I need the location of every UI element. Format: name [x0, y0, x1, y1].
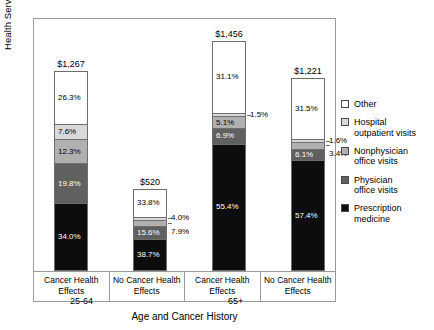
- bar-total-label: $1,456: [215, 29, 243, 39]
- legend-label: Hospital outpatient visits: [354, 117, 416, 138]
- legend-label: Prescription medicine: [354, 203, 402, 224]
- segment-percent-label: 4.0%: [171, 214, 189, 222]
- legend-swatch-icon: [341, 118, 349, 126]
- bar-segment: 55.4%: [213, 144, 245, 270]
- category-label: No Cancer Health Effects: [260, 272, 336, 301]
- x-axis-title: Age and Cancer History: [33, 311, 336, 322]
- stacked-bar: $1,22131.5%6.1%57.4%1.6%3.4%: [291, 78, 325, 271]
- bar-segment: 7.6%: [55, 124, 87, 139]
- legend-swatch-icon: [341, 176, 349, 184]
- bar-segment: 6.1%: [292, 149, 324, 161]
- bar-segment: 31.1%: [213, 42, 245, 113]
- bar-segment: 12.3%: [55, 139, 87, 163]
- chart-legend: OtherHospital outpatient visitsNonphysic…: [341, 99, 433, 232]
- chart-figure: Health Services Expenditures ($) $1,2672…: [0, 0, 434, 330]
- bar-total-label: $1,267: [57, 59, 85, 69]
- segment-percent-label: 6.9%: [213, 132, 234, 140]
- legend-item[interactable]: Hospital outpatient visits: [341, 117, 433, 138]
- segment-percent-label: 5.1%: [213, 119, 234, 127]
- plot-area: $1,26726.3%7.6%12.3%19.8%34.0%$52033.8%1…: [33, 18, 336, 272]
- legend-swatch-icon: [341, 100, 349, 108]
- stacked-bar: $1,45631.1%5.1%6.9%55.4%1.5%: [212, 41, 246, 271]
- bar-total-label: $1,221: [294, 66, 322, 76]
- bar-segment: 26.3%: [55, 72, 87, 124]
- legend-item[interactable]: Other: [341, 99, 433, 109]
- legend-label: Physician office visits: [354, 175, 398, 196]
- segment-percent-label: 7.6%: [55, 128, 76, 136]
- legend-item[interactable]: Prescription medicine: [341, 203, 433, 224]
- stacked-bar: $52033.8%15.6%38.7%4.0%7.9%: [133, 189, 167, 271]
- segment-percent-label: 31.1%: [213, 73, 239, 81]
- segment-percent-label: 15.6%: [134, 229, 160, 237]
- stacked-bar: $1,26726.3%7.6%12.3%19.8%34.0%: [54, 71, 88, 271]
- legend-swatch-icon: [341, 204, 349, 212]
- segment-percent-label: 31.5%: [292, 105, 318, 113]
- bar-segment: 34.0%: [55, 203, 87, 270]
- segment-percent-label: 7.9%: [171, 228, 189, 236]
- y-axis-title: Health Services Expenditures ($): [2, 0, 16, 74]
- legend-swatch-icon: [341, 147, 349, 155]
- bar-segment: 33.8%: [134, 190, 166, 217]
- callout-leader-line: [168, 223, 172, 224]
- segment-percent-label: 1.5%: [250, 111, 268, 119]
- segment-percent-label: 19.8%: [55, 180, 81, 188]
- legend-item[interactable]: Nonphysician office visits: [341, 146, 433, 167]
- legend-label: Nonphysician office visits: [354, 146, 408, 167]
- bar-segment: 31.5%: [292, 79, 324, 139]
- legend-item[interactable]: Physician office visits: [341, 175, 433, 196]
- bar-segment: 5.1%: [213, 116, 245, 128]
- segment-percent-label: 12.3%: [55, 148, 81, 156]
- category-label: No Cancer Health Effects: [109, 272, 185, 301]
- group-label: 65+: [228, 296, 243, 306]
- bar-segment: 57.4%: [292, 160, 324, 270]
- bar-segment: 6.9%: [213, 128, 245, 144]
- callout-leader-line: [326, 145, 330, 146]
- segment-percent-label: 57.4%: [292, 212, 318, 220]
- segment-percent-label: 38.7%: [134, 251, 160, 259]
- bar-total-label: $520: [140, 177, 160, 187]
- group-label: 25-64: [70, 296, 93, 306]
- segment-percent-label: 34.0%: [55, 233, 81, 241]
- bar-segment: 19.8%: [55, 163, 87, 202]
- segment-percent-label: 55.4%: [213, 203, 239, 211]
- segment-percent-label: 6.1%: [292, 151, 313, 159]
- segment-percent-label: 33.8%: [134, 199, 160, 207]
- bar-segment: 38.7%: [134, 239, 166, 270]
- segment-percent-label: 26.3%: [55, 94, 81, 102]
- legend-label: Other: [354, 99, 377, 109]
- bar-segment: 15.6%: [134, 226, 166, 239]
- category-label: Cancer Health Effects: [184, 272, 260, 301]
